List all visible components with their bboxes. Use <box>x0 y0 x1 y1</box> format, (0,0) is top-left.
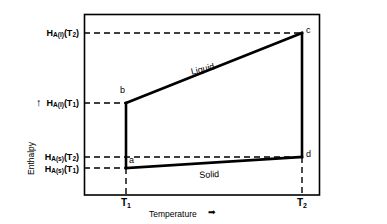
x-axis-arrow-icon: ➡ <box>208 208 216 217</box>
x-tick-label-T2: T2 <box>297 198 307 208</box>
y-tick-label-HA-s-T1: HA(s)(T1) <box>45 165 79 174</box>
point-label-b: b <box>120 86 125 95</box>
y-axis-arrow-icon: ↑ <box>36 97 42 108</box>
y-tick-label-HA-l-T2: HA(l)(T2) <box>47 29 79 38</box>
point-label-a: a <box>129 156 134 165</box>
y-tick-arg-close: ) <box>76 98 79 108</box>
y-tick-arg-close: ) <box>76 164 79 174</box>
y-tick-label-HA-s-T2: HA(s)(T2) <box>45 153 79 162</box>
enthalpy-temperature-chart: HA(l)(T2) HA(l)(T1) HA(s)(T2) HA(s)(T1) … <box>0 0 387 224</box>
y-tick-label-HA-l-T1: HA(l)(T1) <box>47 99 79 108</box>
y-tick-base-sub: A(s) <box>51 155 64 162</box>
x-tick-sub: 1 <box>127 202 131 209</box>
region-label-solid: Solid <box>199 170 219 180</box>
point-label-d: d <box>306 150 311 159</box>
y-tick-arg: (T <box>64 28 73 38</box>
y-axis-title: Enthalpy <box>27 142 36 175</box>
y-tick-arg: (T <box>64 98 73 108</box>
x-tick-sub: 2 <box>303 202 307 209</box>
point-label-c: c <box>306 26 311 35</box>
y-tick-base-sub: A(l) <box>53 101 64 108</box>
x-tick-label-T1: T1 <box>121 198 131 208</box>
y-tick-arg: (T <box>64 152 73 162</box>
y-tick-arg: (T <box>64 164 73 174</box>
y-tick-arg-close: ) <box>76 28 79 38</box>
y-tick-base-sub: A(s) <box>51 167 64 174</box>
segment-a-d-solid <box>126 157 302 168</box>
y-tick-base-sub: A(l) <box>53 31 64 38</box>
dashed-guides <box>84 33 302 168</box>
y-tick-arg-close: ) <box>76 152 79 162</box>
x-axis-title: Temperature <box>149 210 197 219</box>
enthalpy-path-group <box>126 33 302 168</box>
